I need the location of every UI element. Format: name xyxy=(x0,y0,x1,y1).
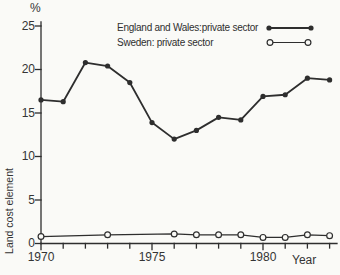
data-point-open xyxy=(327,233,333,239)
data-point-filled xyxy=(61,99,66,104)
data-point-filled xyxy=(238,117,243,122)
data-point-open xyxy=(282,235,288,241)
land-cost-line-chart: % 0 5 10 15 20 25 1970 1975 1980 Year La… xyxy=(0,0,340,275)
x-tick-label: 1975 xyxy=(130,250,174,264)
data-point-open xyxy=(105,232,111,238)
data-point-filled xyxy=(266,25,271,30)
y-tick-label: 25 xyxy=(9,19,35,33)
data-point-filled xyxy=(172,137,177,142)
data-point-open xyxy=(38,234,44,240)
data-point-filled xyxy=(194,128,199,133)
axes xyxy=(36,22,338,250)
data-point-filled xyxy=(216,115,221,120)
data-point-filled xyxy=(127,80,132,85)
x-tick-label: 1980 xyxy=(241,250,285,264)
data-point-filled xyxy=(105,63,110,68)
series-line xyxy=(41,63,330,140)
x-axis-title: Year xyxy=(292,253,316,267)
data-point-open xyxy=(305,232,311,238)
x-tick-label: 1970 xyxy=(19,250,63,264)
data-point-filled xyxy=(38,97,43,102)
data-point-filled xyxy=(283,92,288,97)
data-point-filled xyxy=(305,76,310,81)
data-point-filled xyxy=(83,60,88,65)
y-axis-unit-label: % xyxy=(30,1,41,15)
data-point-open xyxy=(194,232,200,238)
y-tick-label: 20 xyxy=(9,62,35,76)
data-point-filled xyxy=(327,77,332,82)
legend-glyph-england-wales xyxy=(266,25,313,30)
data-point-open xyxy=(267,40,273,46)
y-tick-label: 15 xyxy=(9,106,35,120)
data-point-open xyxy=(171,231,177,237)
data-point-open xyxy=(238,232,244,238)
data-point-filled xyxy=(308,25,313,30)
series-england-wales xyxy=(38,60,332,142)
data-point-filled xyxy=(149,120,154,125)
data-point-open xyxy=(305,40,311,46)
y-axis-title: Land cost element xyxy=(2,161,16,261)
data-point-open xyxy=(260,235,266,241)
legend-item-england-wales-label: England and Wales:private sector xyxy=(117,21,258,34)
data-point-open xyxy=(216,232,222,238)
series-sweden xyxy=(38,231,332,240)
data-point-filled xyxy=(260,94,265,99)
legend-item-sweden-label: Sweden: private sector xyxy=(117,36,213,49)
legend-glyph-sweden xyxy=(267,40,311,46)
